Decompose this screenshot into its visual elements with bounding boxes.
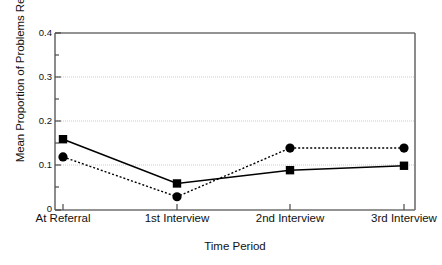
y-axis-ticks	[55, 33, 61, 210]
data-point-marker	[172, 192, 181, 201]
data-point-marker	[59, 135, 67, 143]
grid-lines	[55, 77, 415, 165]
data-point-marker	[173, 179, 181, 187]
series-line	[63, 139, 404, 183]
data-point-marker	[286, 166, 294, 174]
data-series-layer	[58, 135, 408, 201]
data-point-marker	[400, 162, 408, 170]
x-axis-ticks	[63, 204, 404, 210]
series-line	[63, 148, 404, 197]
data-point-marker	[58, 152, 67, 161]
series-solid-square-series	[59, 135, 408, 188]
data-point-marker	[399, 143, 408, 152]
series-dotted-circle-series	[58, 143, 408, 201]
data-point-marker	[285, 143, 294, 152]
